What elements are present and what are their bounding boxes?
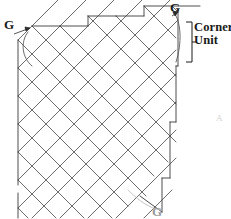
- arc-g-top-right: [172, 10, 180, 62]
- label-corner-unit-line1: Corner: [194, 21, 231, 34]
- label-corner-unit-line2: Unit: [194, 34, 231, 47]
- label-faint-right: A: [216, 114, 223, 124]
- label-g-top-left: G: [4, 18, 14, 32]
- grid-lines-down-right: [18, 6, 178, 218]
- lattice-group: [18, 0, 200, 218]
- figure-canvas: G G G Corner Unit A: [0, 0, 231, 219]
- grid-lines-up-right: [18, 0, 178, 218]
- label-corner-unit: Corner Unit: [194, 21, 231, 48]
- right-edge-steps: [162, 12, 178, 212]
- label-g-bottom: G: [152, 205, 162, 219]
- label-g-top-right: G: [170, 1, 180, 15]
